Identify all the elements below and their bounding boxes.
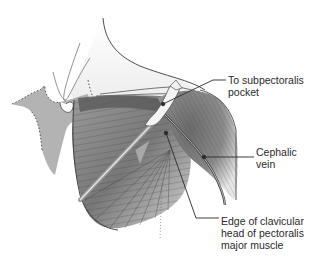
anatomical-figure: To subpectoralis pocket Cephalic vein Ed… (0, 0, 318, 261)
label-clavicular-head-edge: Edge of clavicular head of pectoralis ma… (221, 215, 304, 251)
label-cephalic-vein: Cephalic vein (256, 146, 297, 170)
label-subpectoralis-pocket: To subpectoralis pocket (228, 74, 304, 98)
